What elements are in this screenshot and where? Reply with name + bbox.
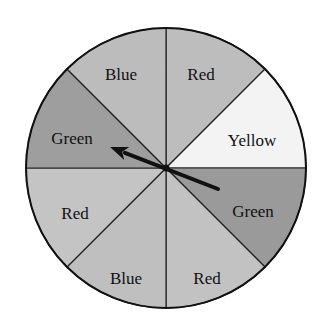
pivot — [163, 165, 170, 172]
sector-label: Red — [187, 65, 215, 84]
sector-label: Blue — [105, 65, 137, 84]
sector-label: Yellow — [228, 131, 277, 150]
sector-label: Green — [232, 202, 274, 221]
sector-label: Red — [61, 204, 89, 223]
sector-label: Blue — [110, 269, 142, 288]
sector-label: Green — [51, 129, 93, 148]
sector-label: Red — [193, 269, 221, 288]
spinner-diagram: RedYellowGreenRedBlueRedGreenBlue — [0, 0, 318, 333]
